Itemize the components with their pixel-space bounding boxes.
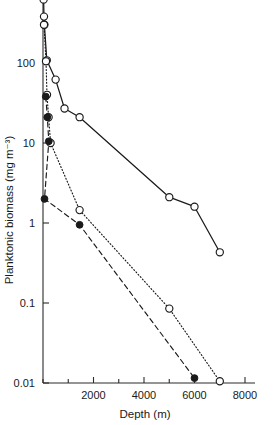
- series-dashed-filled-marker: [76, 221, 83, 228]
- series-dashed-filled-marker: [42, 93, 49, 100]
- y-tick-label-0: 0.01: [14, 377, 35, 389]
- series-solid-open-line: [43, 0, 220, 252]
- x-tick-label-6: 6000: [182, 389, 206, 401]
- series-dashed-filled-marker: [41, 196, 48, 203]
- tick-labels-group: 0.010.11101002000400060008000: [14, 57, 258, 401]
- x-tick-label-8: 8000: [233, 389, 257, 401]
- x-tick-label-4: 4000: [132, 389, 156, 401]
- series-solid-open-marker: [76, 114, 83, 121]
- series-dotted-open-marker: [42, 58, 49, 65]
- series-dotted-open-marker: [40, 21, 47, 28]
- y-tick-label-3: 10: [23, 137, 35, 149]
- series-solid-open-marker: [52, 76, 59, 83]
- series-solid-open-marker: [61, 105, 68, 112]
- series-solid-open-marker: [216, 249, 223, 256]
- series-dashed-filled-marker: [44, 114, 51, 121]
- chart-canvas: 0.010.11101002000400060008000 Depth (m) …: [0, 0, 280, 425]
- y-tick-label-1: 0.1: [20, 297, 35, 309]
- series-solid-open-marker: [40, 0, 47, 3]
- series-dashed-filled-marker: [45, 138, 52, 145]
- x-tick-label-2: 2000: [81, 389, 105, 401]
- y-tick-label-4: 100: [17, 57, 35, 69]
- series-solid-open-marker: [191, 203, 198, 210]
- series-dashed-filled-line: [45, 97, 195, 379]
- data-series-group: [40, 0, 224, 385]
- series-dotted-open-marker: [166, 305, 173, 312]
- y-tick-label-2: 1: [29, 217, 35, 229]
- series-dotted-open-marker: [76, 207, 83, 214]
- planktonic-biomass-depth-chart: 0.010.11101002000400060008000 Depth (m) …: [0, 0, 280, 425]
- series-solid-open-marker: [166, 194, 173, 201]
- series-dashed-filled-marker: [191, 375, 198, 382]
- series-dotted-open-marker: [216, 378, 223, 385]
- y-axis-label: Planktonic biomass (mg m⁻³): [3, 136, 15, 285]
- axes-group: [43, 2, 255, 383]
- series-solid-open-marker: [40, 13, 47, 20]
- x-axis-label: Depth (m): [119, 408, 170, 420]
